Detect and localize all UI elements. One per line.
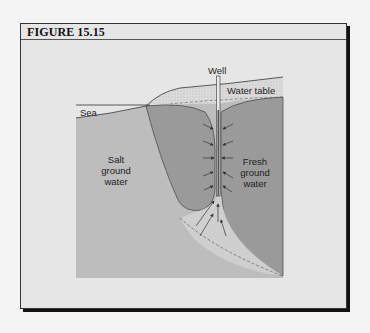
salt-label-line3: water xyxy=(103,176,127,187)
fresh-label-line1: Fresh xyxy=(243,156,267,167)
water-table-label: Water table xyxy=(227,85,275,96)
saltwater-intrusion-diagram: Well Water table Sea Salt ground water F… xyxy=(0,0,370,333)
salt-label-line2: ground xyxy=(101,165,131,176)
sea-label: Sea xyxy=(80,107,98,118)
fresh-label-line3: water xyxy=(242,178,266,189)
well-label: Well xyxy=(208,65,226,76)
fresh-label-line2: ground xyxy=(240,167,270,178)
salt-label-line1: Salt xyxy=(108,154,125,165)
